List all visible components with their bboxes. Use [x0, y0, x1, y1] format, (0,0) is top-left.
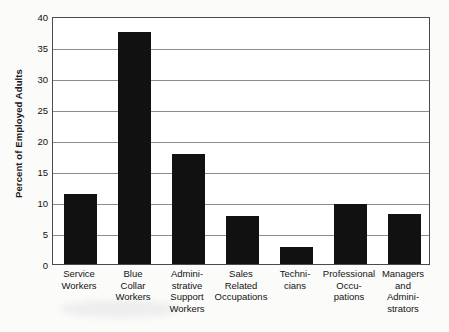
x-tick-label-line: Service: [52, 268, 106, 280]
x-tick-label: ServiceWorkers: [52, 268, 106, 291]
y-axis-tick-labels: 0510152025303540: [22, 17, 48, 265]
y-tick-label: 25: [26, 105, 48, 116]
x-tick-label-line: pations: [322, 291, 376, 303]
y-tick-label: 30: [26, 74, 48, 85]
x-tick-label-line: Sales: [214, 268, 268, 280]
x-tick-label-line: Managers: [376, 268, 430, 280]
bar: [280, 247, 313, 264]
bar-chart-figure: Percent of Employed Adults 0510152025303…: [0, 0, 449, 332]
y-tick-label: 15: [26, 167, 48, 178]
gridline: [53, 173, 429, 174]
x-tick-label-line: Techni-: [268, 268, 322, 280]
bar: [388, 214, 421, 264]
x-tick-label-line: Workers: [106, 291, 160, 303]
x-tick-label: ManagersandAdmini-strators: [376, 268, 430, 314]
x-tick-label: Techni-cians: [268, 268, 322, 291]
y-tick-label: 0: [26, 260, 48, 271]
y-tick-label: 20: [26, 136, 48, 147]
x-tick-label-line: Support: [160, 291, 214, 303]
x-tick-label-line: Workers: [52, 280, 106, 292]
x-tick-label-line: Admini-: [376, 291, 430, 303]
y-tick-label: 35: [26, 43, 48, 54]
x-tick-label-line: Related: [214, 280, 268, 292]
x-tick-label: SalesRelatedOccupations: [214, 268, 268, 303]
bar: [334, 204, 367, 264]
x-tick-label-line: Blue: [106, 268, 160, 280]
bar: [64, 194, 97, 264]
bar: [172, 154, 205, 264]
gridline: [53, 142, 429, 143]
x-tick-label-line: Professional: [322, 268, 376, 280]
x-tick-label: Admini-strativeSupportWorkers: [160, 268, 214, 314]
x-tick-label-line: strative: [160, 280, 214, 292]
x-tick-label-line: Workers: [160, 303, 214, 315]
gridline: [53, 204, 429, 205]
y-tick-label: 5: [26, 229, 48, 240]
y-tick-label: 40: [26, 12, 48, 23]
bar: [118, 32, 151, 264]
x-tick-label-line: Admini-: [160, 268, 214, 280]
x-tick-label-line: and: [376, 280, 430, 292]
gridline: [53, 80, 429, 81]
x-tick-label-line: Occu-: [322, 280, 376, 292]
x-tick-label-line: Occupations: [214, 291, 268, 303]
gridline: [53, 111, 429, 112]
gridline: [53, 49, 429, 50]
x-tick-label-line: Collar: [106, 280, 160, 292]
x-tick-label: ProfessionalOccu-pations: [322, 268, 376, 303]
x-tick-label: BlueCollarWorkers: [106, 268, 160, 303]
x-tick-label-line: cians: [268, 280, 322, 292]
x-tick-label-line: strators: [376, 303, 430, 315]
y-tick-label: 10: [26, 198, 48, 209]
plot-area: [52, 17, 430, 265]
bar: [226, 216, 259, 264]
x-axis-category-labels: ServiceWorkersBlueCollarWorkersAdmini-st…: [52, 268, 430, 332]
